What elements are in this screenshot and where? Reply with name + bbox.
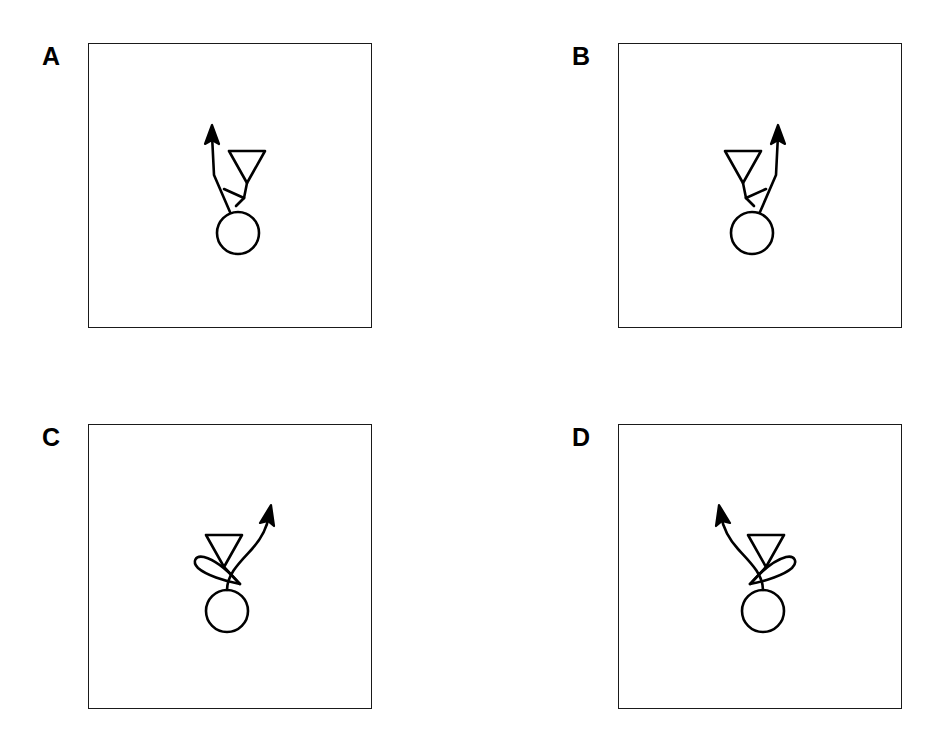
hook-barb (746, 189, 766, 198)
panel-diagram-d (618, 424, 902, 709)
panel-a: A (36, 38, 376, 333)
axon-line (212, 135, 230, 212)
downward-triangle (206, 535, 242, 567)
arrowhead (205, 125, 219, 144)
panel-diagram-b (618, 43, 902, 328)
soma-circle (206, 590, 248, 632)
downward-triangle (229, 151, 265, 183)
hook-barb-tail (746, 198, 754, 206)
panel-label-b: B (572, 44, 590, 69)
soma-circle (731, 212, 773, 254)
arrowhead (771, 125, 785, 144)
triangle-stem (244, 183, 247, 198)
soma-circle (217, 212, 259, 254)
panel-c: C (36, 419, 376, 714)
panel-b: B (566, 38, 906, 333)
panel-diagram-a (88, 43, 372, 328)
triangle-stem (743, 183, 746, 198)
panel-diagram-c (88, 424, 372, 709)
panel-d: D (566, 419, 906, 714)
panel-label-c: C (42, 425, 60, 450)
downward-triangle (725, 151, 761, 183)
hook-barb-tail (236, 198, 244, 206)
hook-barb (224, 189, 244, 198)
panel-label-a: A (42, 44, 60, 69)
axon-line (760, 135, 778, 212)
soma-circle (742, 590, 784, 632)
downward-triangle (748, 535, 784, 567)
panel-label-d: D (572, 425, 590, 450)
figure-root: A B (0, 0, 946, 740)
